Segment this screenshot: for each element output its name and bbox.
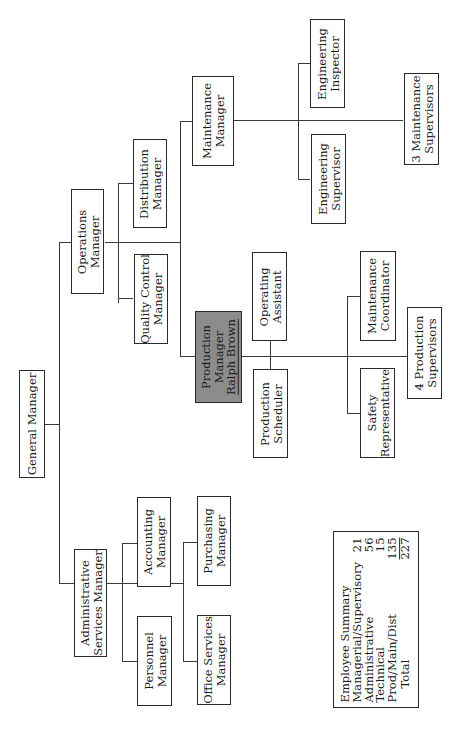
connector — [180, 356, 195, 357]
node-operations-manager: OperationsManager — [71, 189, 104, 294]
node-production-supervisors: 4 ProductionSupervisors — [407, 307, 442, 399]
connector — [298, 63, 310, 64]
connector — [122, 543, 123, 662]
connector — [183, 661, 197, 662]
connector — [180, 121, 192, 122]
connector — [105, 242, 181, 243]
node-engineering-supervisor: EngineeringSupervisor — [311, 134, 346, 224]
connector — [180, 121, 181, 357]
connector — [122, 661, 137, 662]
connector — [347, 296, 348, 414]
node-maintenance-coordinator: MaintenanceCoordinator — [360, 251, 396, 341]
connector — [347, 413, 360, 414]
node-office-services-manager: Office ServicesManager — [197, 615, 231, 705]
employee-summary: Employee Summary Managerial/Supervisory2… — [333, 531, 419, 708]
connector — [241, 356, 407, 357]
connector — [183, 542, 184, 662]
node-personnel-manager: PersonnelManager — [137, 616, 172, 706]
connector — [233, 120, 403, 121]
node-maintenance-manager: MaintenanceManager — [192, 76, 234, 166]
node-maintenance-supervisors: 3 MaintenanceSupervisors — [404, 73, 439, 165]
node-admin-services-manager: AdministrativeServices Manager — [74, 549, 107, 657]
connector — [298, 63, 299, 180]
connector — [44, 424, 59, 425]
connector — [59, 242, 60, 583]
node-accounting-manager: AccountingManager — [137, 497, 171, 587]
node-distribution-manager: DistributionManager — [133, 139, 167, 228]
node-engineering-inspector: EngineeringInspector — [310, 19, 345, 108]
connector — [118, 183, 133, 184]
node-production-manager: ProductionManagerRalph Brown — [195, 311, 242, 403]
connector — [59, 583, 74, 584]
connector — [183, 542, 197, 543]
node-safety-representative: SafetyRepresentative — [360, 368, 395, 458]
node-general-manager: General Manager — [19, 370, 45, 478]
connector — [298, 179, 310, 180]
node-purchasing-manager: PurchasingManager — [197, 496, 231, 586]
connector — [118, 298, 133, 299]
connector — [347, 296, 360, 297]
connector — [118, 183, 119, 303]
node-operating-assistant: OperatingAssistant — [252, 252, 287, 341]
node-production-scheduler: ProductionScheduler — [253, 369, 288, 458]
connector — [122, 543, 137, 544]
node-quality-control-manager: Quality ControlManager — [134, 254, 168, 344]
